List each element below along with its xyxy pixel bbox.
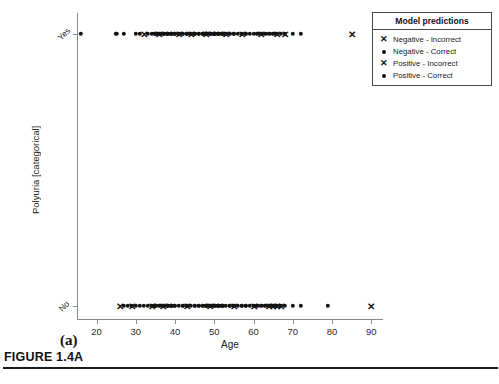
scatter-point [298,304,302,308]
legend-entry-label: Negative - Incorrect [393,35,461,44]
subplot-label: (a) [60,332,78,349]
scatter-point: ✕ [182,302,191,311]
x-tick-label: 20 [91,326,102,337]
scatter-point: ✕ [277,302,286,311]
dot-marker-icon [375,66,393,84]
legend-entry: Positive - Correct [375,69,489,81]
scatter-point: ✕ [367,302,376,311]
scatter-point: ✕ [175,30,184,39]
x-tick-label: 80 [327,326,338,337]
x-tick [175,320,176,324]
scatter-point: ✕ [127,302,136,311]
scatter-point [122,32,126,36]
x-tick [254,320,255,324]
figure-caption: FIGURE 1.4A [0,350,499,364]
x-tick-label: 50 [209,326,220,337]
scatter-point [326,304,330,308]
y-axis-title: Polyuria [categorical] [28,60,42,280]
figure-caption-block: FIGURE 1.4A [0,350,499,369]
x-tick [214,320,215,324]
scatter-point [291,32,295,36]
legend-entry-label: Positive - Correct [393,71,453,80]
scatter-point: ✕ [139,30,148,39]
x-tick-label: 70 [287,326,298,337]
x-axis-title: Age [77,339,383,350]
scatter-point: ✕ [206,302,215,311]
legend-entry-label: Positive - Incorrect [393,59,458,68]
legend-box: Model predictions ✕Negative - IncorrectN… [372,12,492,86]
x-tick [97,320,98,324]
scatter-point: ✕ [249,302,258,311]
scatter-point: ✕ [159,302,168,311]
y-tick-label: Yes [56,26,73,43]
scatter-point: ✕ [257,30,266,39]
scatter-point: ✕ [186,30,195,39]
x-tick [332,320,333,324]
x-tick-label: 40 [170,326,181,337]
x-tick-label: 90 [366,326,377,337]
x-tick [293,320,294,324]
scatter-point: ✕ [147,302,156,311]
y-tick-label: No [57,299,72,314]
scatter-point: ✕ [237,30,246,39]
scatter-point [79,32,83,36]
x-tick [136,320,137,324]
scatter-point [291,304,295,308]
scatter-point: ✕ [280,30,289,39]
scatter-point: ✕ [222,30,231,39]
scatter-point: ✕ [202,30,211,39]
x-tick-label: 60 [248,326,259,337]
legend-entries: ✕Negative - IncorrectNegative - Correct✕… [373,30,491,85]
y-tick [73,306,77,307]
x-tick-label: 30 [131,326,142,337]
caption-divider [3,367,498,369]
scatter-point: ✕ [229,302,238,311]
figure-panel: ✕✕✕✕✕✕✕✕✕✕✕✕✕✕✕✕✕✕✕✕✕✕✕✕ 203040506070809… [0,0,499,348]
scatter-point [114,32,118,36]
scatter-marker-layer: ✕✕✕✕✕✕✕✕✕✕✕✕✕✕✕✕✕✕✕✕✕✕✕✕ [77,13,383,320]
legend-title: Model predictions [373,13,491,30]
scatter-point: ✕ [347,30,356,39]
legend-entry-label: Negative - Correct [393,47,456,56]
y-tick [73,34,77,35]
scatter-point: ✕ [155,30,164,39]
scatter-point [298,32,302,36]
x-tick [371,320,372,324]
scatter-point: ✕ [116,302,125,311]
